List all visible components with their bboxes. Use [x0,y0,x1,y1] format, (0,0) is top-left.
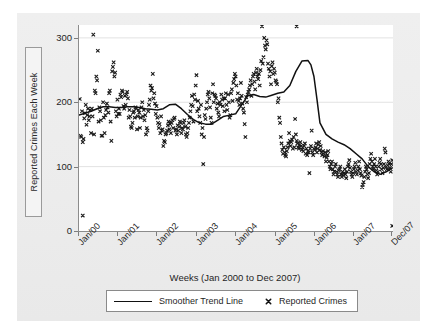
x-tick-label: Dec/07 [389,220,416,247]
chart-legend: Smoother Trend Line Reported Crimes [106,290,358,312]
x-tick-label: Jan/06 [312,221,338,247]
x-axis-title: Weeks (Jan 2000 to Dec 2007) [78,272,392,283]
legend-entry-trend-line: Smoother Trend Line [114,296,243,306]
legend-label-reported-crimes: Reported Crimes [279,296,347,306]
x-tick-mark [314,232,315,236]
x-tick-label: Jan/05 [273,221,299,247]
x-tick-mark [275,232,276,236]
x-tick-label: Jan/04 [233,221,259,247]
chart-figure: Reported Crimes Each Week 0100200300 Jan… [0,0,429,331]
x-marker-icon [264,297,273,306]
line-swatch-icon [114,301,152,302]
x-tick-label: Jan/07 [351,221,377,247]
x-tick-label: Jan/00 [76,221,102,247]
x-tick-label: Jan/03 [194,221,220,247]
x-tick-label: Jan/02 [154,221,180,247]
legend-entry-reported-crimes: Reported Crimes [264,296,347,306]
x-tick-label: Jan/01 [115,221,141,247]
legend-label-trend-line: Smoother Trend Line [159,296,243,306]
